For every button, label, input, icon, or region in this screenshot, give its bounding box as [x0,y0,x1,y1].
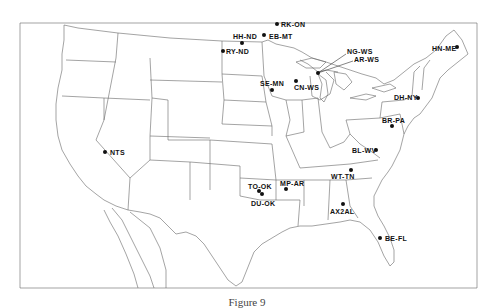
site-marker-icon [284,187,288,191]
site-label: AX2AL [330,208,354,215]
site-label: TO-OK [248,183,272,190]
site-label: HN-ME [432,45,456,52]
site-label: EB-MT [269,33,293,40]
site-marker-icon [341,202,345,206]
map-frame [20,23,477,288]
ng-ws-leader [318,54,346,73]
site-marker-icon [275,22,279,26]
site-marker-icon [221,49,225,53]
site-label: SE-MN [260,80,284,87]
site-label: BR-PA [382,117,405,124]
site-marker-icon [240,41,244,45]
site-label: CN-WS [294,84,319,91]
site-label: BL-WV [352,147,376,154]
site-label: WT-TN [331,173,355,180]
great-lakes [296,58,396,102]
site-marker-icon [260,192,264,196]
site-marker-icon [262,33,266,37]
figure-caption: Figure 9 [0,296,494,308]
site-marker-icon [294,79,298,83]
site-marker-icon [270,88,274,92]
site-marker-icon [316,71,320,75]
site-label: RK-ON [281,21,305,28]
site-label: MP-AR [280,180,304,187]
site-marker-icon [349,168,353,172]
site-marker-icon [378,236,382,240]
ar-ws-leader [318,61,353,73]
site-label: DH-NY [394,94,418,101]
baja-california [104,208,166,288]
site-label: DU-OK [251,200,275,207]
site-marker-icon [390,124,394,128]
site-label: BE-FL [385,235,407,242]
site-marker-icon [103,150,107,154]
site-label: NTS [110,149,125,156]
site-label: NG-WS [347,48,373,55]
site-label: RY-ND [226,48,249,55]
site-label: HH-ND [233,33,257,40]
site-label: AR-WS [354,56,379,63]
